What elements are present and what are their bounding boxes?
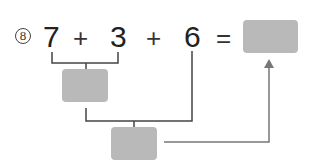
connector-lines [0,0,311,165]
bracket-7-3 [52,52,118,63]
arrow-head-icon [264,59,274,68]
bracket-step1-6 [86,51,192,121]
arrow-to-answer [164,66,269,142]
